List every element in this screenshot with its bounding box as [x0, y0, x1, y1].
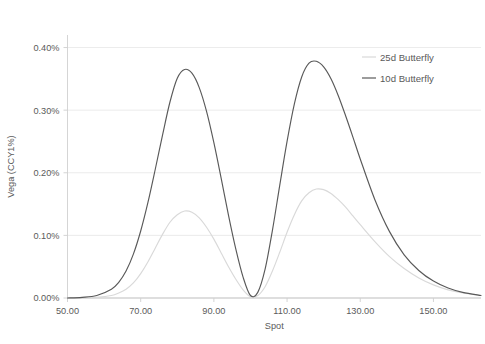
- figure-caption: [6, 336, 476, 344]
- x-tick-label: 50.00: [56, 306, 79, 316]
- legend-label: 10d Butterfly: [380, 73, 434, 84]
- x-tick-label: 70.00: [129, 306, 152, 316]
- y-tick-label: 0.40%: [33, 43, 59, 53]
- vega-butterfly-line-chart: 0.00%0.10%0.20%0.30%0.40%50.0070.0090.00…: [0, 0, 485, 344]
- x-tick-label: 110.00: [273, 306, 300, 316]
- x-axis-title: Spot: [265, 321, 284, 331]
- chart-figure: 0.00%0.10%0.20%0.30%0.40%50.0070.0090.00…: [0, 0, 485, 344]
- series-line-10d-butterfly: [68, 61, 482, 298]
- x-tick-label: 150.00: [419, 306, 447, 316]
- y-tick-label: 0.30%: [33, 106, 59, 116]
- legend-label: 25d Butterfly: [380, 52, 434, 63]
- x-tick-label: 90.00: [202, 306, 225, 316]
- y-tick-label: 0.10%: [33, 231, 59, 241]
- y-tick-label: 0.00%: [33, 293, 59, 303]
- y-axis-title: Vega (CCY1%): [6, 135, 16, 197]
- x-tick-label: 130.00: [346, 306, 374, 316]
- y-tick-label: 0.20%: [33, 168, 59, 178]
- series-line-25d-butterfly: [68, 189, 482, 298]
